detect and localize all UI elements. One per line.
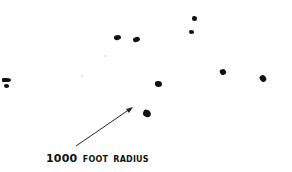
radius-annotation-label: 1000 FOOT RADIUS [46,147,149,166]
radius-word: RADIUS [113,155,148,164]
unit-word: FOOT [83,155,108,164]
diagram-canvas: 1000 FOOT RADIUS [0,0,292,172]
radius-text: RADIUS [113,155,148,164]
radius-unit: FOOT [83,155,108,164]
radius-value: 1000 [46,152,77,165]
